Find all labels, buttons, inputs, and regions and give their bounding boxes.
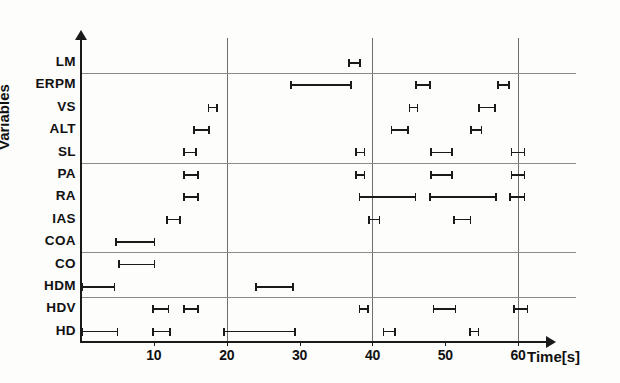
x-tick-50 (445, 341, 446, 346)
x-tick-label-10: 10 (146, 347, 161, 363)
y-axis-label-co: CO (55, 256, 76, 271)
interval-bar (348, 62, 360, 64)
y-axis-label-erpm: ERPM (35, 76, 76, 91)
y-axis-label-ias: IAS (52, 211, 76, 226)
interval-bar (115, 241, 155, 243)
interval-bar (497, 84, 510, 86)
interval-bar (511, 174, 526, 176)
interval-bar (355, 152, 365, 154)
interval-bar (469, 331, 479, 333)
x-axis-title: Time[s] (527, 348, 580, 365)
y-axis-labels: LMERPMVSALTSLPARAIASCOACOHDMHDVHD (0, 0, 76, 383)
interval-bar (152, 308, 169, 310)
horizontal-gridline-after-lm (81, 73, 576, 74)
x-tick-label-50: 50 (438, 347, 453, 363)
interval-bar (478, 107, 495, 109)
x-tick-label-40: 40 (365, 347, 380, 363)
x-axis-arrow-icon (546, 336, 556, 348)
interval-bar (359, 196, 417, 198)
interval-bar (355, 174, 365, 176)
x-tick-label-60: 60 (511, 347, 526, 363)
y-axis-line (80, 38, 82, 343)
x-tick-label-20: 20 (219, 347, 234, 363)
interval-bar (368, 219, 380, 221)
interval-bar (409, 107, 418, 109)
interval-bar (193, 129, 210, 131)
interval-bar (81, 331, 118, 333)
y-axis-arrow-icon (75, 30, 87, 40)
interval-bar (118, 264, 155, 266)
interval-bar (183, 196, 199, 198)
horizontal-gridline-after-sl (81, 163, 576, 164)
y-axis-label-hd: HD (56, 323, 76, 338)
y-axis-label-hdv: HDV (46, 300, 76, 315)
y-axis-label-vs: VS (57, 99, 76, 114)
interval-bar (359, 308, 369, 310)
interval-bar (415, 84, 430, 86)
plot-area: Variables LMERPMVSALTSLPARAIASCOACOHDMHD… (0, 0, 620, 383)
interval-bar (513, 308, 528, 310)
interval-bar (290, 84, 352, 86)
interval-bar (152, 331, 170, 333)
interval-bar (433, 308, 456, 310)
y-axis-label-alt: ALT (50, 121, 76, 136)
interval-bar (470, 129, 482, 131)
interval-bar (255, 286, 294, 288)
y-axis-label-hdm: HDM (44, 278, 76, 293)
interval-bar (183, 308, 199, 310)
horizontal-gridline-after-hdm (81, 297, 576, 298)
interval-bar (383, 331, 396, 333)
interval-bar (391, 129, 409, 131)
horizontal-gridline-after-coa (81, 252, 576, 253)
interval-bar (429, 196, 497, 198)
y-axis-label-pa: PA (57, 166, 76, 181)
y-axis-label-ra: RA (56, 188, 76, 203)
y-axis-label-sl: SL (58, 144, 76, 159)
interval-bar (183, 152, 197, 154)
y-axis-label-coa: COA (45, 233, 76, 248)
x-tick-60 (518, 341, 519, 346)
interval-bar (81, 286, 115, 288)
interval-bar (166, 219, 181, 221)
interval-bar (223, 331, 296, 333)
chart-figure: Variables LMERPMVSALTSLPARAIASCOACOHDMHD… (0, 0, 620, 383)
interval-bar (511, 152, 526, 154)
interval-bar (183, 174, 199, 176)
x-axis-line (80, 341, 550, 343)
x-tick-label-30: 30 (292, 347, 307, 363)
x-tick-10 (154, 341, 155, 346)
interval-bar (430, 152, 453, 154)
x-tick-40 (372, 341, 373, 346)
interval-bar (453, 219, 471, 221)
interval-bar (208, 107, 218, 109)
x-tick-20 (227, 341, 228, 346)
interval-bar (430, 174, 453, 176)
interval-bar (509, 196, 525, 198)
y-axis-label-lm: LM (56, 54, 76, 69)
x-tick-30 (300, 341, 301, 346)
